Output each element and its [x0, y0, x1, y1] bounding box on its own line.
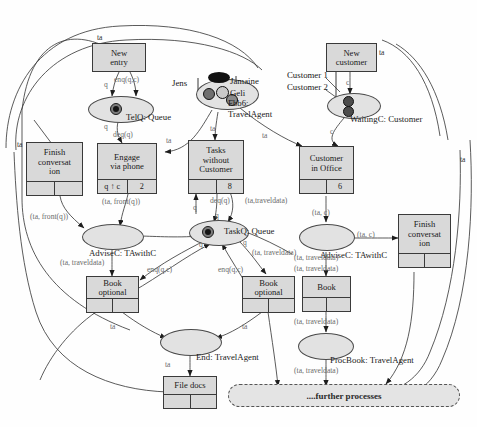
cell-left — [87, 299, 113, 312]
arc-label-q-new-entry: q — [104, 80, 108, 89]
arc-label-ta-front-q-2: (ta, front(q)) — [30, 212, 68, 221]
arc-label-ta-left-outer: ta — [17, 140, 22, 149]
place-label-telq: TelQ: Queue — [126, 112, 171, 122]
arc-label-enq-new-entry: enq(q,c) — [114, 75, 139, 84]
arc-label-ta-right-outer: ta — [460, 155, 465, 164]
transition-file-docs[interactable]: File docs — [163, 376, 217, 409]
agent-name-geli: Geli — [230, 88, 245, 98]
token — [203, 88, 215, 100]
arc-label-ta-end: ta — [165, 360, 170, 369]
transition-label: File docs — [164, 377, 216, 395]
transition-cells — [87, 299, 138, 312]
transition-label: Newentry — [93, 44, 145, 71]
transition-book-optional-right[interactable]: Bookoptional — [242, 276, 295, 313]
customer-name-2: Customer 2 — [287, 82, 328, 92]
arc-label-ta-front-q: (ta, front(q)) — [102, 197, 140, 206]
place-advisec-left[interactable] — [82, 224, 144, 250]
transition-label: Bookoptional — [243, 277, 294, 299]
cell-left — [189, 180, 217, 193]
arc-label-ta-top: ta — [97, 33, 102, 42]
cell-left — [164, 395, 191, 408]
arc-label-ta-tasks: ta — [210, 124, 215, 133]
customer-name-1: Customer 1 — [287, 70, 328, 80]
transition-new-customer[interactable]: Newcustomer — [326, 43, 377, 72]
transition-customer-in-office[interactable]: Customerin Office 6 — [299, 146, 354, 194]
transition-finish-conversation-left[interactable]: Finishconversation — [26, 142, 83, 196]
arc-label-ta-book-right: ta — [242, 322, 247, 331]
arc-label-ta-traveldata-top: (ta,traveldata) — [245, 196, 287, 205]
arc-label-ta-customer: ta — [262, 131, 267, 140]
arc-label-enq-right: enq(q,c) — [218, 265, 243, 274]
cell-right — [191, 395, 217, 408]
place-label-taskq: TaskQ: Queue — [224, 226, 274, 236]
transition-label: Finishconversation — [27, 143, 82, 182]
transition-cells: 8 — [189, 180, 243, 193]
cell-left — [300, 180, 327, 193]
arc-label-ta-traveldata-r2: (ta, traveldata) — [294, 264, 338, 273]
cell-left — [243, 299, 269, 312]
place-advisec-right[interactable] — [299, 224, 355, 251]
arc-label-ta-c-advise: (ta, c) — [357, 230, 375, 239]
cell-left — [27, 182, 55, 195]
place-label-advisec-left: AdviseC: TAwithC — [89, 248, 156, 258]
cell-left — [303, 298, 327, 311]
arc-label-ta-traveldata-q: (ta, traveldata) — [252, 248, 296, 257]
agent-name-jamaine: Jamaine — [230, 76, 259, 86]
arc-label-q-taskq-out: q — [199, 240, 203, 249]
transition-cells — [243, 299, 294, 312]
transition-book-optional-left[interactable]: Bookoptional — [86, 276, 139, 313]
arc-label-q-taskq-in: q — [215, 211, 219, 220]
token-dark-cluster — [208, 72, 230, 83]
arc-label-ta-traveldata-r1: (ta, traveldata) — [294, 253, 338, 262]
transition-cells — [27, 182, 82, 195]
cell-left: q ↑ c — [98, 180, 128, 193]
transition-engage-via-phone[interactable]: Engagevia phone q ↑ c 2 — [97, 143, 157, 194]
cell-right — [113, 299, 138, 312]
transition-cells: 6 — [300, 180, 353, 193]
transition-cells: q ↑ c 2 — [98, 180, 156, 193]
arc-label-q-taskq-right: q — [243, 238, 247, 247]
place-label-procbook: ProcBook: TravelAgent — [330, 355, 414, 365]
transition-label: Bookoptional — [87, 277, 138, 299]
cell-right — [425, 254, 450, 267]
cell-right — [55, 182, 82, 195]
transition-label: Engagevia phone — [98, 144, 156, 180]
further-processes[interactable]: ....further processes — [228, 384, 460, 407]
arc-label-ta-right-top: ta — [379, 48, 384, 57]
transition-label: Newcustomer — [327, 44, 376, 71]
arc-label-q-telq-out: q — [104, 122, 108, 131]
arc-label-deq-tasks: deq(q) — [210, 196, 230, 205]
arc-label-ta-traveldata-r3: (ta, traveldata) — [294, 317, 338, 326]
cell-right: 6 — [327, 180, 353, 193]
cell-left — [399, 254, 425, 267]
transition-cells — [399, 254, 450, 267]
cell-right — [327, 298, 350, 311]
transition-cells — [303, 298, 350, 311]
transition-tasks-without-customer[interactable]: TaskswithoutCustomer 8 — [188, 140, 244, 194]
cell-right — [269, 299, 294, 312]
arc-label-q-tasks: q — [193, 203, 197, 212]
arc-label-ta-engage: ta — [166, 136, 171, 145]
place-label-travelagent: Fbb6:TravelAgent — [228, 98, 272, 119]
arc-label-enq-left: enq(q,c) — [147, 265, 172, 274]
arc-label-c-waitingc: c — [330, 127, 333, 136]
transition-label: Book — [303, 277, 350, 298]
transition-book[interactable]: Book — [302, 276, 351, 312]
transition-cells — [164, 395, 216, 408]
cell-right: 8 — [217, 180, 244, 193]
transition-label: Finishconversation — [399, 215, 450, 254]
agent-name-jens: Jens — [172, 78, 187, 88]
arc-label-ta-c-office: (ta, c) — [312, 208, 330, 217]
token-inner — [113, 106, 119, 112]
transition-new-entry[interactable]: Newentry — [92, 43, 146, 72]
arc-label-ta-traveldata-left: (ta, traveldata) — [60, 258, 104, 267]
diagram-canvas: Newentry Finishconversation Engagevia ph… — [0, 0, 477, 427]
transition-finish-conversation-right[interactable]: Finishconversation — [398, 214, 451, 268]
token-inner — [205, 229, 211, 235]
arc-label-c-new-customer: c — [346, 78, 349, 87]
arc-label-ta-book-left: ta — [110, 322, 115, 331]
place-label-waitingc: WaitingC: Customer — [350, 114, 422, 124]
cell-right: 2 — [128, 180, 157, 193]
transition-label: TaskswithoutCustomer — [189, 141, 243, 180]
arc-label-deq-telq: deq(q) — [113, 130, 133, 139]
